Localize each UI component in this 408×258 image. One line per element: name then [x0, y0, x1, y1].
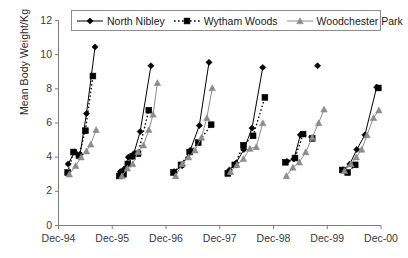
- data-point-marker: [209, 85, 215, 91]
- data-point-marker: [282, 159, 288, 165]
- data-point-marker: [71, 149, 77, 155]
- data-point-marker: [206, 59, 212, 65]
- data-point-marker: [154, 80, 160, 86]
- data-point-marker: [148, 63, 154, 69]
- series-north-nibley: [65, 44, 380, 175]
- data-point-marker: [83, 148, 89, 154]
- data-point-marker: [208, 122, 214, 128]
- data-point-marker: [92, 44, 98, 50]
- x-tick-label: Dec-95: [82, 232, 142, 244]
- data-point-marker: [93, 127, 99, 133]
- x-tick-label: Dec-94: [29, 232, 89, 244]
- x-tick-label: Dec-97: [190, 232, 250, 244]
- x-tick-label: Dec-96: [136, 232, 196, 244]
- data-point-marker: [315, 120, 321, 126]
- data-point-marker: [260, 64, 266, 70]
- y-tick-label: 2: [26, 184, 52, 196]
- data-point-marker: [82, 128, 88, 134]
- legend-item-north-nibley[interactable]: North Nibley: [72, 15, 169, 27]
- data-point-marker: [146, 107, 152, 113]
- legend-label: Woodchester Park: [317, 15, 403, 27]
- y-tick-label: 8: [26, 82, 52, 94]
- data-point-marker: [196, 122, 202, 128]
- series-line: [174, 62, 209, 171]
- data-point-marker: [314, 63, 320, 69]
- data-point-marker: [184, 18, 190, 24]
- data-point-marker: [87, 17, 93, 23]
- chart-legend: North NibleyWytham WoodsWoodchester Park: [71, 10, 381, 31]
- data-point-marker: [262, 94, 268, 100]
- data-point-marker: [88, 141, 94, 147]
- series-woodchester-park: [66, 80, 382, 179]
- data-point-marker: [73, 163, 79, 169]
- series-wytham-woods: [65, 73, 381, 179]
- data-point-marker: [260, 120, 266, 126]
- data-point-marker: [90, 73, 96, 79]
- x-tick-label: Dec-98: [244, 232, 304, 244]
- x-tick-label: Dec-00: [351, 232, 408, 244]
- data-point-marker: [253, 144, 259, 150]
- y-tick-label: 10: [26, 48, 52, 60]
- y-tick-label: 0: [26, 219, 52, 231]
- legend-label: North Nibley: [107, 15, 165, 27]
- data-point-marker: [198, 134, 204, 140]
- data-point-marker: [137, 128, 143, 134]
- axis-lines: [59, 21, 382, 226]
- y-tick-label: 6: [26, 116, 52, 128]
- series-line: [343, 87, 376, 170]
- legend-label: Wytham Woods: [204, 15, 278, 27]
- data-point-marker: [204, 115, 210, 121]
- data-point-marker: [146, 127, 152, 133]
- data-point-marker: [300, 131, 306, 137]
- legend-item-woodchester-park[interactable]: Woodchester Park: [282, 15, 407, 27]
- data-point-marker: [376, 107, 382, 113]
- x-tick-label: Dec-99: [297, 232, 357, 244]
- data-point-marker: [240, 156, 246, 162]
- data-point-marker: [241, 142, 247, 148]
- data-point-marker: [249, 125, 255, 131]
- data-point-marker: [375, 85, 381, 91]
- data-point-marker: [250, 133, 256, 139]
- y-tick-label: 4: [26, 150, 52, 162]
- legend-key-triangle-icon: [286, 15, 314, 27]
- legend-key-diamond-icon: [76, 15, 104, 27]
- legend-key-square-icon: [173, 15, 201, 27]
- data-point-marker: [292, 155, 298, 161]
- data-point-marker: [321, 106, 327, 112]
- data-point-marker: [303, 149, 309, 155]
- legend-item-wytham-woods[interactable]: Wytham Woods: [169, 15, 282, 27]
- y-tick-label: 12: [26, 14, 52, 26]
- series-line: [285, 134, 312, 162]
- data-point-marker: [370, 115, 376, 121]
